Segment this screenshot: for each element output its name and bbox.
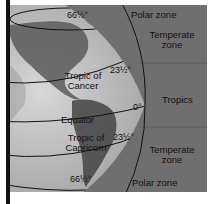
tropic-of-cancer-label: Tropic of Cancer xyxy=(60,71,106,91)
diagram-frame: 66½° 23½° 0° 23½° 66½° Tropic of Cancer … xyxy=(0,0,215,204)
tropic-of-capricorn-degree: 23½° xyxy=(113,132,134,142)
equator-label: Equator xyxy=(61,115,94,125)
polar-zone-bottom-label: Polar zone xyxy=(132,178,177,188)
tropics-label: Tropics xyxy=(162,95,193,105)
antarctic-circle-degree: 66½° xyxy=(70,174,91,184)
tropic-of-cancer-degree: 23½° xyxy=(110,65,131,75)
temperate-zone-south-label: Temperate zone xyxy=(144,145,200,165)
polar-zone-top-label: Polar zone xyxy=(131,10,176,20)
tropic-of-capricorn-label: Tropic of Capricorn xyxy=(60,133,112,153)
arctic-circle-degree: 66½° xyxy=(67,10,88,20)
climate-zone-diagram: 66½° 23½° 0° 23½° 66½° Tropic of Cancer … xyxy=(10,5,207,192)
temperate-zone-north-label: Temperate zone xyxy=(144,30,200,50)
equator-degree: 0° xyxy=(133,102,142,112)
